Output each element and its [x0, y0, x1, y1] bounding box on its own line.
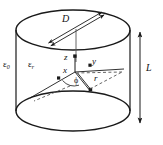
- cylinder-top-ellipse: [16, 10, 130, 50]
- label-axis-y: y: [92, 57, 96, 66]
- label-radius-r: r: [94, 74, 98, 83]
- cylinder-diagram-canvas: [0, 0, 163, 145]
- diameter-strip-edge-upper: [49, 12, 103, 43]
- label-axis-x: x: [63, 66, 67, 75]
- diameter-strip-edge-lower: [51, 15, 104, 46]
- cylinder-outline: [16, 10, 130, 131]
- label-diameter-d: D: [62, 14, 69, 24]
- dielectric-cylinder-figure: ε0 εr D L z y x ϕ r: [0, 0, 163, 145]
- axis-y-line: [75, 69, 124, 72]
- label-length-l: L: [146, 63, 152, 73]
- label-axis-z: z: [64, 53, 68, 62]
- dashed-line-right: [76, 72, 122, 73]
- cylinder-bottom-ellipse: [16, 91, 130, 131]
- dashed-line-lower-left: [34, 86, 70, 101]
- radial-vector-edge-b: [77, 73, 91, 91]
- axis-x-marker: [57, 76, 60, 79]
- axis-z-marker: [73, 54, 76, 57]
- label-angle-phi: ϕ: [74, 77, 78, 85]
- label-epsilon-zero: ε0: [3, 60, 10, 69]
- label-epsilon-r: εr: [28, 60, 34, 69]
